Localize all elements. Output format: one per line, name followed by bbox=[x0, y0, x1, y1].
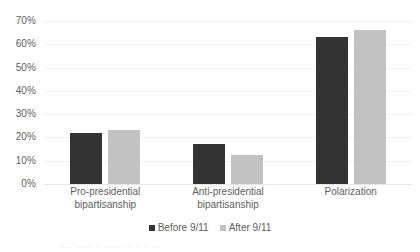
y-axis: 70%60%50%40%30%20%10%0% bbox=[0, 21, 40, 184]
x-axis-baseline bbox=[44, 184, 412, 185]
y-axis-tick-label: 50% bbox=[16, 63, 36, 73]
bar bbox=[70, 133, 102, 184]
x-axis-category-labels: Pro-presidentialbipartisanshipAnti-presi… bbox=[44, 186, 412, 216]
bar bbox=[231, 155, 263, 184]
y-axis-tick-label: 70% bbox=[16, 16, 36, 26]
y-axis-tick-label: 0% bbox=[21, 179, 36, 189]
category-label-line: bipartisanship bbox=[44, 199, 167, 212]
y-axis-tick-label: 60% bbox=[16, 39, 36, 49]
legend-label: Before 9/11 bbox=[158, 222, 209, 233]
legend-item[interactable]: Before 9/11 bbox=[149, 222, 209, 233]
x-axis-category-label: Polarization bbox=[289, 186, 412, 199]
plot-area bbox=[44, 21, 412, 184]
bar bbox=[108, 130, 140, 184]
cutoff-caption-strip: .... .. ... .. .. . .. .. .. .. .. bbox=[0, 243, 420, 252]
gridline bbox=[44, 21, 412, 22]
legend-swatch-icon bbox=[220, 225, 226, 231]
chart-legend: Before 9/11After 9/11 bbox=[0, 222, 420, 233]
legend-label: After 9/11 bbox=[229, 222, 272, 233]
bar bbox=[193, 144, 225, 184]
bar bbox=[354, 30, 386, 184]
y-axis-tick-label: 40% bbox=[16, 86, 36, 96]
x-axis-category-label: Pro-presidentialbipartisanship bbox=[44, 186, 167, 211]
legend-swatch-icon bbox=[149, 225, 155, 231]
y-axis-tick-label: 10% bbox=[16, 156, 36, 166]
bar bbox=[316, 37, 348, 184]
y-axis-tick-label: 20% bbox=[16, 132, 36, 142]
bar-chart-figure: 70%60%50%40%30%20%10%0% Pro-presidential… bbox=[0, 0, 420, 252]
category-label-line: Polarization bbox=[289, 186, 412, 199]
legend-item[interactable]: After 9/11 bbox=[220, 222, 272, 233]
category-label-line: Pro-presidential bbox=[44, 186, 167, 199]
y-axis-tick-label: 30% bbox=[16, 109, 36, 119]
x-axis-category-label: Anti-presidentialbipartisanship bbox=[167, 186, 290, 211]
cutoff-caption-text: .... .. ... .. .. . .. .. .. .. .. bbox=[62, 243, 158, 250]
category-label-line: bipartisanship bbox=[167, 199, 290, 212]
category-label-line: Anti-presidential bbox=[167, 186, 290, 199]
